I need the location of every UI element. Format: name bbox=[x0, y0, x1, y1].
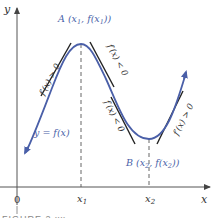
x2-tick-label: x2 bbox=[145, 193, 156, 206]
curve-label: y = f(x) bbox=[33, 127, 70, 138]
slope-label-left: f′(x) > 0 bbox=[36, 61, 62, 98]
point-a-label: A (x1, f(x1)) bbox=[57, 13, 112, 26]
figure-caption: FIGURE 2.xx bbox=[2, 214, 66, 218]
curve-arrow-right bbox=[184, 72, 186, 79]
y-axis-label: y bbox=[3, 3, 11, 16]
slope-label-upper-right: f′(x) < 0 bbox=[105, 41, 131, 78]
diagram-canvas: y x 0 x1 x2 A (x1, f(x1)) B (x2, f(x2)) … bbox=[0, 0, 213, 218]
origin-label: 0 bbox=[14, 194, 20, 205]
point-b-label: B (x2, f(x2)) bbox=[125, 157, 180, 170]
x1-tick-label: x1 bbox=[77, 193, 87, 206]
x-axis-label: x bbox=[201, 193, 208, 206]
